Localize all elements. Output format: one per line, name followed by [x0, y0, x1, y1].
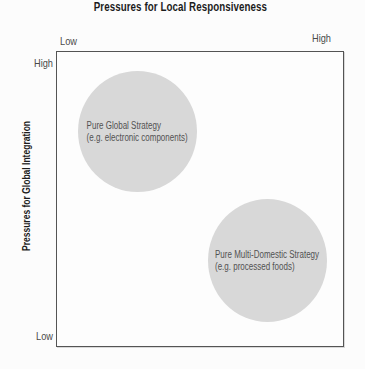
integration-responsiveness-diagram: Pressures for Local Responsiveness Low H… [0, 0, 365, 369]
top-axis-tick-low: Low [60, 35, 77, 47]
left-axis-tick-low: Low [18, 330, 53, 342]
bubble-pure-multi-domestic-strategy: Pure Multi-Domestic Strategy (e.g. proce… [208, 199, 327, 322]
bubble-pure-global-strategy-text: Pure Global Strategy (e.g. electronic co… [87, 120, 188, 144]
bubble-example: (e.g. electronic components) [87, 132, 188, 144]
bubble-label: Pure Global Strategy [87, 120, 188, 132]
bubble-pure-multi-domestic-strategy-text: Pure Multi-Domestic Strategy (e.g. proce… [215, 249, 319, 273]
left-axis-tick-high: High [18, 57, 53, 69]
left-axis-title: Pressures for Global Integration [20, 121, 32, 251]
top-axis-tick-high: High [312, 32, 331, 44]
bubble-example: (e.g. processed foods) [215, 261, 319, 273]
bubble-label: Pure Multi-Domestic Strategy [215, 249, 319, 261]
bubble-pure-global-strategy: Pure Global Strategy (e.g. electronic co… [78, 71, 197, 192]
top-axis-title: Pressures for Local Responsiveness [40, 0, 321, 14]
